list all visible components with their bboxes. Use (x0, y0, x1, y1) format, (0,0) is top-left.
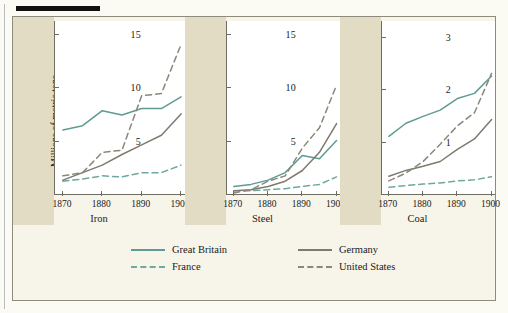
x-tick-mark (267, 191, 268, 196)
x-tick-mark (336, 191, 337, 196)
x-tick-mark (141, 191, 142, 196)
x-tick-mark (301, 191, 302, 196)
x-tick-mark (180, 191, 181, 196)
y-tick-mark (226, 141, 231, 142)
x-tick-mark (233, 191, 234, 196)
page-edge-rule (4, 4, 5, 309)
panel-coal: Coal 1231870188018901900 (340, 17, 495, 225)
legend-swatch-great-britain (131, 249, 165, 251)
panel-steel-plot (226, 21, 340, 195)
y-tick-mark (54, 141, 59, 142)
y-tick-mark (54, 87, 59, 88)
y-tick-label: 3 (446, 31, 451, 42)
y-tick-mark (381, 89, 386, 90)
x-tick-mark (388, 191, 389, 196)
x-tick-label: 1870 (52, 199, 71, 209)
legend-label-united-states: United States (339, 261, 395, 272)
x-tick-label: 1890 (131, 199, 150, 209)
legend-label-germany: Germany (339, 244, 378, 255)
x-tick-mark (62, 191, 63, 196)
series-line (234, 141, 337, 187)
series-line (63, 44, 181, 175)
panel-iron-plot (54, 21, 185, 195)
x-tick-mark (456, 191, 457, 196)
y-tick-mark (226, 34, 231, 35)
legend-item-france: France (131, 261, 201, 272)
panel-steel-title: Steel (185, 213, 340, 224)
legend-item-germany: Germany (298, 244, 378, 255)
legend-item-great-britain: Great Britain (131, 244, 227, 255)
y-tick-label: 10 (131, 82, 141, 93)
panel-steel-y-stub (185, 17, 226, 225)
y-tick-label: 5 (136, 135, 141, 146)
x-tick-label: 1890 (292, 199, 311, 209)
panel-band: Millions of metric tons Iron 51015187018… (13, 17, 495, 225)
legend: Great Britain France Germany United Stat… (13, 242, 495, 284)
panel-iron-title: Iron (13, 213, 185, 224)
series-line (389, 177, 492, 187)
y-tick-mark (381, 37, 386, 38)
x-tick-mark (422, 191, 423, 196)
series-line (234, 85, 337, 193)
title-rule (16, 6, 100, 11)
x-tick-label: 1880 (92, 199, 111, 209)
panel-iron: Millions of metric tons Iron 51015187018… (13, 17, 185, 225)
series-line (389, 76, 492, 136)
y-tick-label: 10 (286, 82, 296, 93)
x-tick-label: 1880 (258, 199, 277, 209)
y-tick-mark (54, 34, 59, 35)
y-tick-label: 5 (291, 135, 296, 146)
x-tick-label: 1870 (223, 199, 242, 209)
legend-label-france: France (172, 261, 201, 272)
legend-swatch-germany (298, 249, 332, 251)
panel-coal-title: Coal (340, 213, 495, 224)
series-line (389, 120, 492, 177)
series-line (389, 73, 492, 180)
x-tick-label: 1900 (481, 199, 500, 209)
legend-swatch-united-states (298, 266, 332, 268)
legend-swatch-france (131, 266, 165, 268)
panel-coal-y-stub (340, 17, 381, 225)
y-tick-mark (226, 87, 231, 88)
panel-steel: Steel 510151870188018901900 (185, 17, 340, 225)
legend-label-great-britain: Great Britain (172, 244, 227, 255)
x-tick-label: 1870 (378, 199, 397, 209)
y-tick-mark (381, 142, 386, 143)
y-tick-label: 2 (446, 84, 451, 95)
series-line (63, 97, 181, 130)
y-tick-label: 1 (446, 136, 451, 147)
x-tick-mark (101, 191, 102, 196)
x-tick-mark (491, 191, 492, 196)
x-tick-label: 1890 (447, 199, 466, 209)
panel-coal-plot (381, 21, 495, 195)
series-line (63, 114, 181, 180)
figure-root: Millions of metric tons Iron 51015187018… (0, 0, 508, 313)
x-tick-label: 1880 (413, 199, 432, 209)
panel-coal-series (382, 21, 508, 171)
y-tick-label: 15 (131, 28, 141, 39)
legend-item-united-states: United States (298, 261, 395, 272)
y-tick-label: 15 (286, 28, 296, 39)
